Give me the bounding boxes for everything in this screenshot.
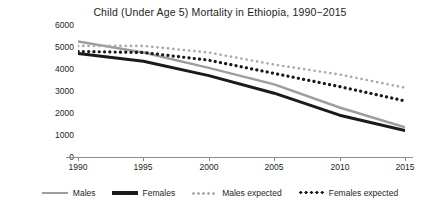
chart-container: Child (Under Age 5) Mortality in Ethiopi… — [0, 0, 440, 207]
plot-area — [78, 25, 405, 157]
x-tick-mark — [405, 157, 406, 161]
chart-legend: Males Females Males expected Females exp… — [0, 182, 440, 204]
x-tick-mark — [143, 157, 144, 161]
legend-label: Females expected — [329, 188, 398, 198]
legend-label: Females — [143, 188, 176, 198]
legend-item-males[interactable]: Males — [42, 188, 96, 198]
legend-label: Males — [73, 188, 96, 198]
x-tick-mark — [78, 157, 79, 161]
x-tick-mark — [274, 157, 275, 161]
x-tick-label: 1990 — [58, 162, 98, 172]
legend-item-females[interactable]: Females — [112, 188, 176, 198]
x-tick-label: 2005 — [254, 162, 294, 172]
solid-gray-line-swatch-icon — [42, 192, 68, 195]
series-lines — [78, 25, 405, 157]
x-tick-label: 1995 — [123, 162, 163, 172]
dotted-gray-line-swatch-icon — [191, 192, 217, 195]
x-tick-mark — [340, 157, 341, 161]
legend-item-males-expected[interactable]: Males expected — [191, 188, 282, 198]
legend-label: Males expected — [222, 188, 282, 198]
series-line-females — [78, 54, 405, 131]
legend-item-females-expected[interactable]: Females expected — [298, 188, 398, 198]
dotted-black-line-swatch-icon — [298, 191, 324, 194]
solid-black-line-swatch-icon — [112, 191, 138, 194]
x-tick-label: 2010 — [320, 162, 360, 172]
x-tick-label: 2015 — [385, 162, 425, 172]
x-tick-mark — [209, 157, 210, 161]
x-tick-label: 2000 — [189, 162, 229, 172]
